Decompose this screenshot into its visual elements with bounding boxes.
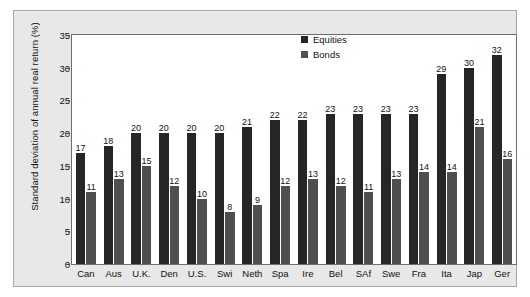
- x-tick-label-den: Den: [160, 268, 177, 279]
- bar-value-label: 20: [159, 123, 169, 133]
- bar-group: 2015: [128, 35, 156, 264]
- bar-bonds[interactable]: 12: [336, 186, 346, 265]
- x-tick-label-neth: Neth: [242, 268, 262, 279]
- x-axis: CanAusU.K.DenU.S.SwiNethSpaIreBelSAfSweF…: [71, 268, 517, 284]
- bar-group: 1711: [72, 35, 100, 264]
- legend-item-bonds[interactable]: Bonds: [301, 48, 347, 61]
- bar-group: 3216: [488, 35, 516, 264]
- bar-bonds[interactable]: 14: [447, 172, 457, 264]
- chart-legend: EquitiesBonds: [301, 33, 347, 63]
- bar-value-label: 21: [242, 117, 252, 127]
- y-tick-mark: [66, 166, 70, 167]
- bar-equities[interactable]: 23: [353, 114, 363, 264]
- legend-swatch-icon: [301, 51, 308, 58]
- bar-bonds[interactable]: 21: [475, 127, 485, 264]
- bars-layer: 1711181320152012201020821922122213231223…: [72, 35, 516, 264]
- x-tick-label-fra: Fra: [412, 268, 426, 279]
- bar-group: 2914: [433, 35, 461, 264]
- bar-value-label: 13: [391, 169, 401, 179]
- bar-value-label: 12: [336, 176, 346, 186]
- bar-value-label: 17: [76, 143, 86, 153]
- bar-value-label: 23: [381, 104, 391, 114]
- bar-equities[interactable]: 21: [242, 127, 252, 264]
- bar-bonds[interactable]: 11: [364, 192, 374, 264]
- bar-equities[interactable]: 30: [464, 68, 474, 264]
- bar-equities[interactable]: 20: [187, 133, 197, 264]
- bar-value-label: 16: [502, 149, 512, 159]
- y-tick-mark: [66, 231, 70, 232]
- bar-bonds[interactable]: 12: [281, 186, 291, 265]
- legend-swatch-icon: [301, 36, 308, 43]
- bar-value-label: 20: [214, 123, 224, 133]
- bar-bonds[interactable]: 13: [308, 179, 318, 264]
- bar-bonds[interactable]: 10: [197, 199, 207, 264]
- bar-value-label: 13: [114, 169, 124, 179]
- x-tick-label-uk: U.K.: [132, 268, 150, 279]
- x-tick-label-spa: Spa: [272, 268, 289, 279]
- bar-group: 2010: [183, 35, 211, 264]
- bar-value-label: 10: [197, 189, 207, 199]
- bar-value-label: 13: [308, 169, 318, 179]
- bar-bonds[interactable]: 16: [503, 159, 513, 264]
- bar-value-label: 23: [353, 104, 363, 114]
- bar-bonds[interactable]: 11: [86, 192, 96, 264]
- plot-area: 1711181320152012201020821922122213231223…: [71, 34, 517, 265]
- bar-equities[interactable]: 20: [215, 133, 225, 264]
- bar-value-label: 14: [447, 162, 457, 172]
- bar-bonds[interactable]: 12: [170, 186, 180, 265]
- bar-equities[interactable]: 18: [104, 146, 114, 264]
- bar-equities[interactable]: 22: [298, 120, 308, 264]
- legend-item-equities[interactable]: Equities: [301, 33, 347, 46]
- bar-value-label: 15: [142, 156, 152, 166]
- bar-value-label: 11: [364, 182, 373, 192]
- bar-value-label: 32: [492, 45, 502, 55]
- bar-value-label: 22: [270, 110, 280, 120]
- x-tick-label-bel: Bel: [329, 268, 343, 279]
- bar-bonds[interactable]: 15: [142, 166, 152, 264]
- bar-equities[interactable]: 23: [326, 114, 336, 264]
- bar-value-label: 30: [464, 58, 474, 68]
- bar-group: 2313: [377, 35, 405, 264]
- bar-bonds[interactable]: 13: [392, 179, 402, 264]
- x-tick-label-swi: Swi: [217, 268, 232, 279]
- bar-group: 2213: [294, 35, 322, 264]
- bar-equities[interactable]: 32: [492, 55, 502, 264]
- x-tick-label-ire: Ire: [302, 268, 313, 279]
- legend-label: Equities: [313, 34, 347, 45]
- bar-value-label: 23: [325, 104, 335, 114]
- bar-group: 1813: [100, 35, 128, 264]
- bar-equities[interactable]: 29: [437, 74, 447, 264]
- x-tick-label-us: U.S.: [188, 268, 206, 279]
- bar-group: 2311: [350, 35, 378, 264]
- bar-group: 208: [211, 35, 239, 264]
- bar-value-label: 11: [86, 182, 95, 192]
- bar-equities[interactable]: 20: [131, 133, 141, 264]
- bar-value-label: 14: [419, 162, 429, 172]
- bar-bonds[interactable]: 14: [419, 172, 429, 264]
- bar-bonds[interactable]: 13: [114, 179, 124, 264]
- bar-value-label: 20: [131, 123, 141, 133]
- bar-equities[interactable]: 20: [159, 133, 169, 264]
- bar-bonds[interactable]: 9: [253, 205, 263, 264]
- figure-panel: Standard deviation of annual real return…: [13, 10, 517, 287]
- bar-equities[interactable]: 17: [76, 153, 86, 264]
- bar-value-label: 22: [298, 110, 308, 120]
- y-tick-mark: [66, 133, 70, 134]
- bar-equities[interactable]: 22: [270, 120, 280, 264]
- chart-screenshot: Standard deviation of annual real return…: [0, 0, 530, 297]
- y-tick-mark: [66, 35, 70, 36]
- y-axis-title: Standard deviation of annual real return…: [29, 0, 40, 241]
- bar-value-label: 12: [169, 176, 179, 186]
- bar-group: 2212: [266, 35, 294, 264]
- y-tick-mark: [66, 264, 70, 265]
- bar-group: 2012: [155, 35, 183, 264]
- y-tick-mark: [66, 199, 70, 200]
- bar-group: 2314: [405, 35, 433, 264]
- x-tick-label-can: Can: [77, 268, 94, 279]
- bar-equities[interactable]: 23: [409, 114, 419, 264]
- bar-equities[interactable]: 23: [381, 114, 391, 264]
- bar-bonds[interactable]: 8: [225, 212, 235, 264]
- x-tick-label-ita: Ita: [441, 268, 452, 279]
- x-tick-label-ger: Ger: [494, 268, 510, 279]
- y-tick-mark: [66, 68, 70, 69]
